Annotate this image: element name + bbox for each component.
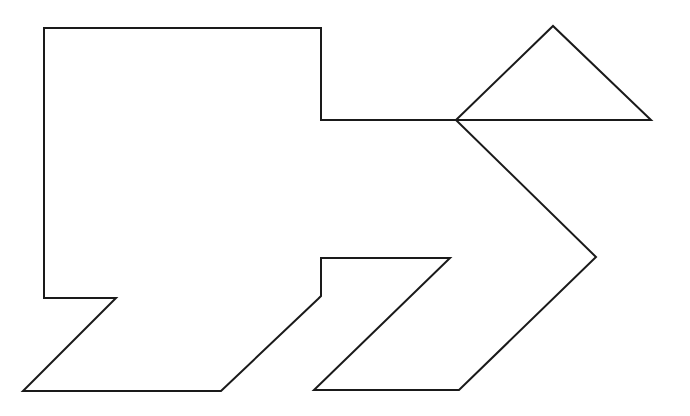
top-triangle <box>456 26 651 120</box>
main-body-outline <box>23 28 596 391</box>
tangram-figure <box>0 0 690 416</box>
